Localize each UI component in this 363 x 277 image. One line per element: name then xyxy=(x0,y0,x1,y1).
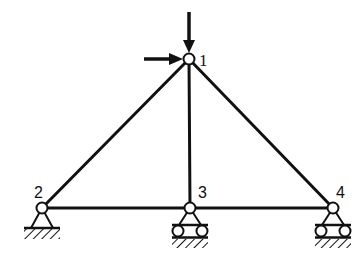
node-3-hinge xyxy=(185,203,196,214)
vertical-load-arrow-icon xyxy=(183,12,195,53)
node-1-hinge xyxy=(184,54,195,65)
truss-nodes xyxy=(37,54,339,214)
node-1-label: 1 xyxy=(199,51,208,70)
node-4-hinge xyxy=(328,203,339,214)
node-2-hinge xyxy=(37,203,48,214)
horizontal-load-arrow-icon xyxy=(144,53,183,65)
member-1-2 xyxy=(42,59,189,208)
truss-members xyxy=(42,59,333,208)
node-4-label: 4 xyxy=(336,184,345,201)
member-1-3 xyxy=(189,59,190,208)
node-3-label: 3 xyxy=(198,184,207,201)
truss-diagram: 1 2 3 4 xyxy=(0,0,363,277)
node-2-label: 2 xyxy=(34,184,43,201)
member-1-4 xyxy=(189,59,333,208)
